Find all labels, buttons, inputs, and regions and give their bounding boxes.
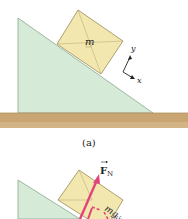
block-label: m: [85, 36, 94, 47]
panel-a-caption: (a): [82, 137, 96, 148]
panel-b: FN mg sin: [18, 161, 128, 219]
normal-force-label: FN: [100, 165, 113, 178]
x-axis-label: x: [137, 76, 142, 85]
ground-shade: [0, 122, 188, 128]
coordinate-axes: y x: [123, 44, 142, 85]
panel-a: m y x (a): [0, 10, 188, 148]
y-axis-label: y: [130, 44, 136, 53]
incline-diagram: m y x (a) FN: [0, 0, 188, 219]
